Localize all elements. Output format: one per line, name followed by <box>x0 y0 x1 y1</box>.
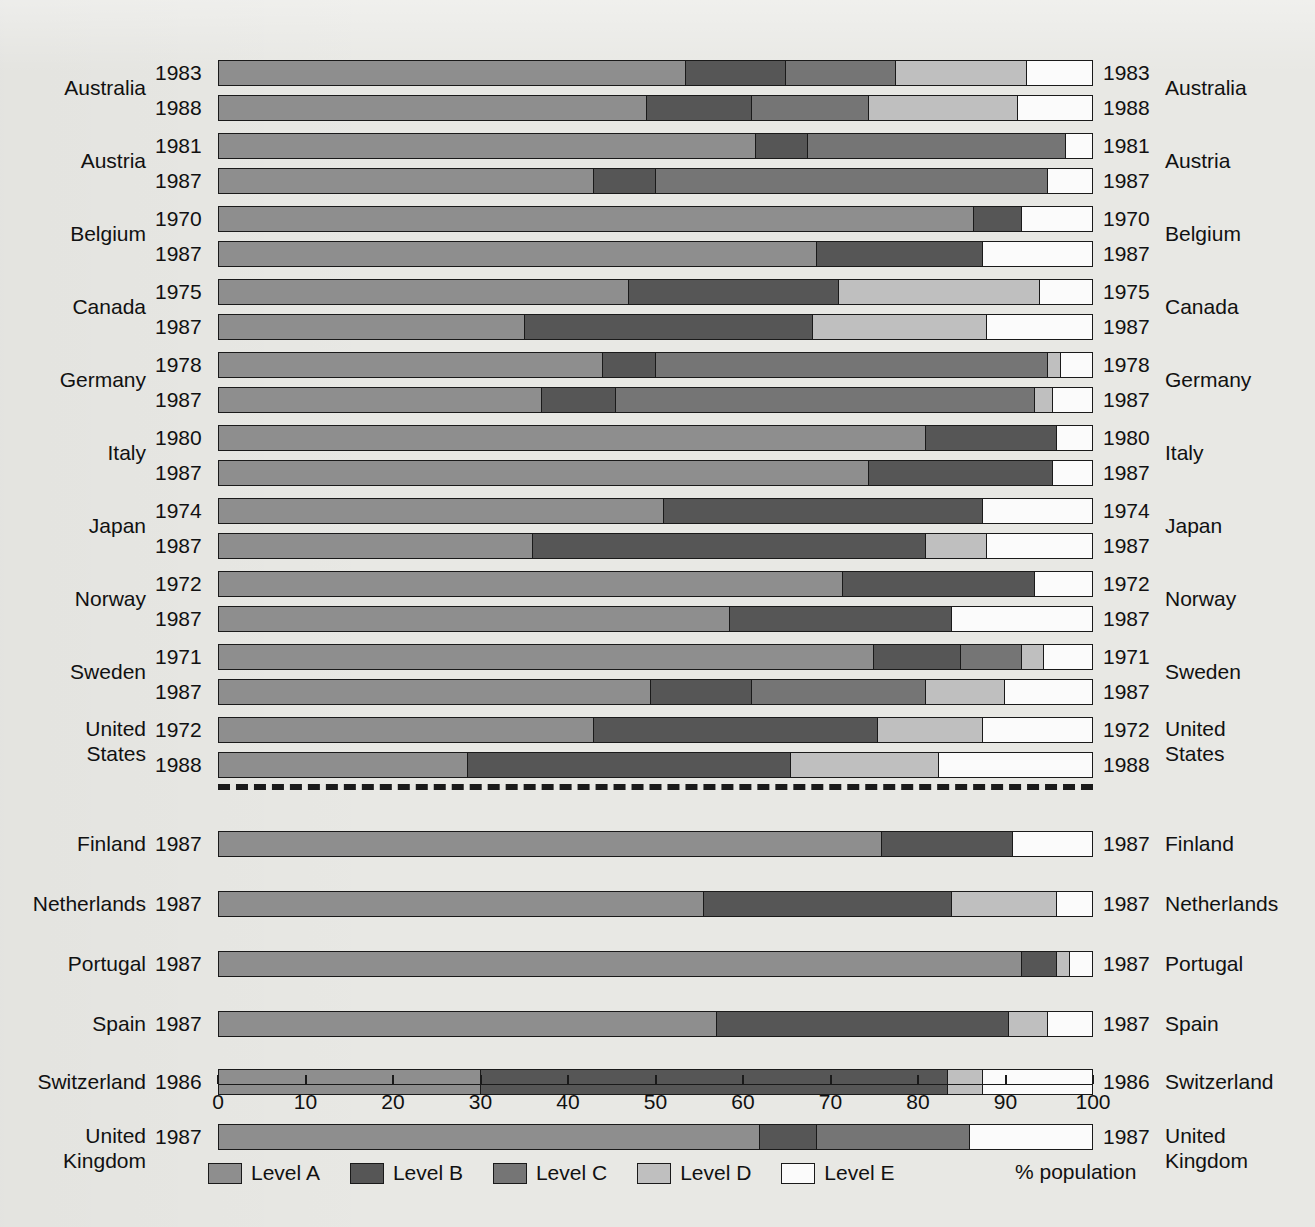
x-axis-tick-label: 40 <box>556 1090 579 1114</box>
legend-label: Level A <box>251 1161 320 1185</box>
country-label-right: Netherlands <box>1165 891 1315 917</box>
bar-segment-level-e <box>952 607 1092 631</box>
stacked-bar <box>218 679 1093 705</box>
bar-segment-level-e <box>1048 1012 1092 1036</box>
bar-segment-level-d <box>1057 952 1070 976</box>
stacked-bar <box>218 891 1093 917</box>
x-axis-tick <box>480 1075 482 1084</box>
country-label-left: Germany <box>0 367 146 393</box>
country-label-right: Australia <box>1165 75 1315 101</box>
bar-segment-level-c <box>616 388 1035 412</box>
bar-segment-level-b <box>1022 952 1057 976</box>
stacked-bar <box>218 460 1093 486</box>
bar-segment-level-e <box>983 718 1092 742</box>
bar-segment-level-a <box>219 753 468 777</box>
bar-segment-level-a <box>219 134 756 158</box>
year-label-left: 1987 <box>155 831 211 857</box>
bar-segment-level-e <box>939 753 1092 777</box>
year-label-right: 1987 <box>1103 460 1159 486</box>
country-label-left: Spain <box>0 1011 146 1037</box>
bar-segment-level-a <box>219 892 704 916</box>
bar-segment-level-e <box>1035 572 1092 596</box>
year-label-right: 1972 <box>1103 717 1159 743</box>
stacked-bar <box>218 498 1093 524</box>
bar-segment-level-b <box>468 753 791 777</box>
bar-segment-level-a <box>219 315 525 339</box>
legend-label: Level E <box>824 1161 894 1185</box>
stacked-bar <box>218 95 1093 121</box>
bar-segment-level-e <box>1053 461 1092 485</box>
year-label-right: 1988 <box>1103 752 1159 778</box>
year-label-right: 1981 <box>1103 133 1159 159</box>
country-label-left: Canada <box>0 294 146 320</box>
year-label-right: 1987 <box>1103 314 1159 340</box>
country-label-left-line2: Kingdom <box>0 1148 146 1173</box>
country-label-left: Portugal <box>0 951 146 977</box>
bar-segment-level-d <box>791 753 939 777</box>
bar-segment-level-a <box>219 607 730 631</box>
bar-segment-level-a <box>219 207 974 231</box>
year-label-right: 1987 <box>1103 241 1159 267</box>
bar-segment-level-a <box>219 353 603 377</box>
bar-segment-level-a <box>219 832 882 856</box>
bar-segment-level-b <box>686 61 786 85</box>
year-label-right: 1971 <box>1103 644 1159 670</box>
bar-segment-level-d <box>952 892 1057 916</box>
year-label-right: 1983 <box>1103 60 1159 86</box>
country-label-left: Belgium <box>0 221 146 247</box>
bar-segment-level-d <box>926 680 1005 704</box>
country-label-left: Norway <box>0 586 146 612</box>
year-label-left: 1971 <box>155 644 211 670</box>
x-axis-tick <box>567 1075 569 1084</box>
year-label-left: 1970 <box>155 206 211 232</box>
year-label-right: 1987 <box>1103 387 1159 413</box>
bar-segment-level-d <box>878 718 983 742</box>
country-label-left: Netherlands <box>0 891 146 917</box>
stacked-bar <box>218 606 1093 632</box>
stacked-bar <box>218 831 1093 857</box>
x-axis-tick-label: 70 <box>819 1090 842 1114</box>
year-label-left: 1987 <box>155 951 211 977</box>
bar-segment-level-a <box>219 718 594 742</box>
year-label-right: 1987 <box>1103 679 1159 705</box>
country-label-left: Austria <box>0 148 146 174</box>
legend-swatch <box>493 1163 527 1184</box>
country-label-left-line1: United <box>0 716 146 741</box>
bar-segment-level-a <box>219 169 594 193</box>
country-label-left: UnitedStates <box>0 716 146 766</box>
bar-segment-level-e <box>1061 353 1092 377</box>
bar-segment-level-b <box>843 572 1035 596</box>
bar-segment-level-a <box>219 426 926 450</box>
bar-segment-level-b <box>882 832 1013 856</box>
x-axis-tick <box>917 1075 919 1084</box>
bar-segment-level-a <box>219 1012 717 1036</box>
x-axis-tick <box>305 1075 307 1084</box>
bar-segment-level-c <box>817 1125 970 1149</box>
year-label-right: 1987 <box>1103 1011 1159 1037</box>
bar-segment-level-a <box>219 499 664 523</box>
bar-segment-level-c <box>656 169 1049 193</box>
year-label-left: 1981 <box>155 133 211 159</box>
section-divider-dashed <box>218 784 1093 790</box>
year-label-left: 1987 <box>155 241 211 267</box>
bar-segment-level-b <box>594 169 655 193</box>
country-label-right: Belgium <box>1165 221 1315 247</box>
bar-segment-level-a <box>219 952 1022 976</box>
bar-segment-level-d <box>1035 388 1052 412</box>
year-label-left: 1974 <box>155 498 211 524</box>
legend-swatch <box>208 1163 242 1184</box>
x-axis-tick <box>655 1075 657 1084</box>
year-label-left: 1988 <box>155 95 211 121</box>
stacked-bar <box>218 533 1093 559</box>
bar-segment-level-b <box>730 607 953 631</box>
bar-segment-level-b <box>533 534 926 558</box>
year-label-right: 1986 <box>1103 1069 1159 1095</box>
x-axis-tick <box>1005 1075 1007 1084</box>
stacked-bar <box>218 1124 1093 1150</box>
year-label-right: 1987 <box>1103 1124 1159 1150</box>
bar-segment-level-d <box>1048 353 1061 377</box>
legend-item: Level D <box>637 1161 751 1185</box>
bar-segment-level-e <box>1040 280 1092 304</box>
bar-segment-level-e <box>970 1125 1092 1149</box>
stacked-bar <box>218 717 1093 743</box>
